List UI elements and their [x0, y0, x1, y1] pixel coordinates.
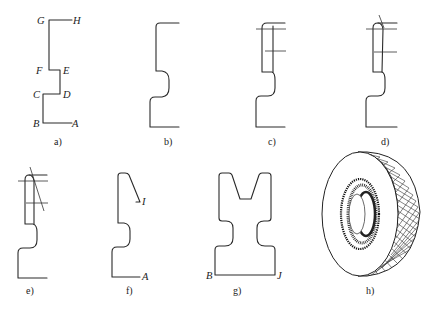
caption-f: f) — [126, 285, 133, 297]
profile-c — [256, 23, 285, 127]
profile-g — [215, 173, 275, 275]
point-label-i: I — [141, 196, 146, 207]
point-label-a: A — [71, 118, 79, 129]
profile-rounded-b — [150, 23, 179, 127]
profile-d — [366, 23, 397, 127]
inner-wall-line-e — [29, 175, 34, 224]
diagram-figure: G H F E C D B A a) b) c) d) e) — [0, 0, 433, 311]
profile-e — [18, 175, 47, 278]
wheel-hub-bore — [349, 194, 365, 234]
slanted-construction-line-d — [379, 15, 384, 28]
caption-h: h) — [366, 285, 374, 297]
point-label-b-g: B — [206, 270, 213, 281]
caption-g: g) — [233, 285, 241, 297]
panel-b: b) — [150, 23, 179, 148]
panel-h: h) — [322, 152, 420, 297]
panel-g: B J g) — [206, 173, 283, 297]
caption-c: c) — [268, 136, 276, 148]
point-label-c: C — [33, 89, 41, 100]
caption-a: a) — [54, 136, 62, 148]
panel-d: d) — [366, 15, 397, 148]
panel-c: c) — [256, 23, 286, 148]
point-label-a-f: A — [141, 271, 149, 282]
inner-wall-line-d — [378, 23, 383, 72]
point-label-g: G — [37, 15, 45, 26]
point-label-b: B — [33, 118, 40, 129]
panel-e: e) — [18, 167, 48, 297]
point-label-h: H — [72, 15, 82, 26]
profile-f — [112, 173, 140, 277]
panel-a: G H F E C D B A a) — [33, 15, 82, 148]
point-label-f: F — [35, 65, 43, 76]
point-label-e: E — [62, 65, 70, 76]
point-label-j: J — [277, 270, 283, 281]
point-label-d: D — [62, 89, 71, 100]
caption-d: d) — [381, 136, 389, 148]
caption-b: b) — [164, 136, 172, 148]
caption-e: e) — [26, 285, 34, 297]
slanted-construction-line-e — [30, 167, 44, 211]
panel-f: I A f) — [112, 173, 149, 297]
